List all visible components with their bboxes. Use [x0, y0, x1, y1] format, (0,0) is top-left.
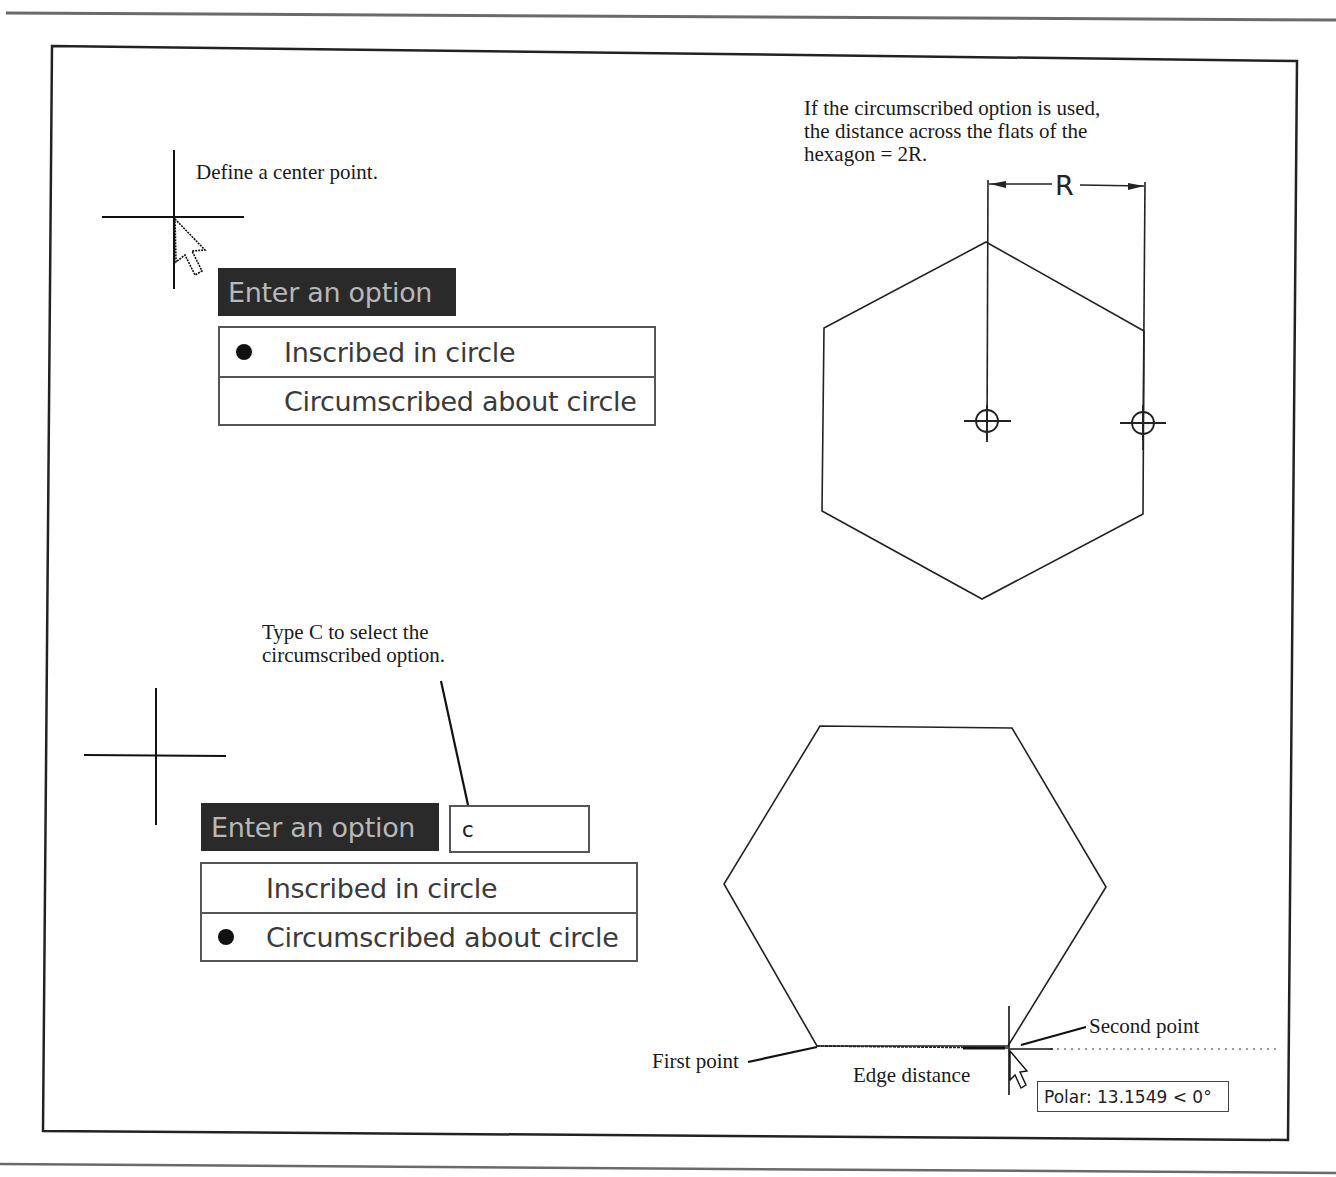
- type-c-callout: Type C to select the circumscribed optio…: [262, 621, 445, 667]
- first-point-label: First point: [652, 1050, 739, 1073]
- command-input[interactable]: c: [449, 805, 590, 853]
- bottom-page-rule: [0, 1164, 1336, 1173]
- enter-option-prompt: Enter an option: [201, 803, 439, 851]
- first-point-leader: [748, 1047, 817, 1062]
- radio-bullet-icon: [218, 929, 234, 945]
- second-point-leader: [1021, 1027, 1086, 1045]
- center-snap-marker-icon: [964, 405, 1011, 442]
- option-list: Inscribed in circle Circumscribed about …: [218, 326, 656, 426]
- circumscribed-hexagon: [724, 726, 1106, 1046]
- option-label: Inscribed in circle: [284, 337, 515, 368]
- callout-line: circumscribed option.: [262, 644, 445, 667]
- circumscribed-note: If the circumscribed option is used, the…: [804, 97, 1100, 166]
- step-caption: Define a center point.: [196, 161, 378, 184]
- callout-leader-line: [441, 681, 468, 805]
- option-inscribed-in-circle[interactable]: Inscribed in circle: [220, 328, 654, 376]
- note-line: If the circumscribed option is used,: [804, 97, 1100, 120]
- option-label: Inscribed in circle: [266, 873, 497, 904]
- second-point-label: Second point: [1089, 1015, 1199, 1038]
- arrow-pointer-icon: [1010, 1051, 1027, 1088]
- enter-option-prompt: Enter an option: [218, 268, 456, 316]
- center-snap-marker-icon: [1120, 405, 1166, 440]
- dimension-label-r: R: [1055, 170, 1074, 201]
- option-circumscribed-about-circle[interactable]: Circumscribed about circle: [220, 376, 654, 424]
- edge-distance-label: Edge distance: [853, 1064, 970, 1087]
- arrow-pointer-icon: [175, 219, 205, 275]
- figure-frame: [43, 46, 1297, 1140]
- option-label: Circumscribed about circle: [266, 922, 619, 953]
- top-page-rule: [6, 13, 1336, 20]
- option-label: Circumscribed about circle: [284, 386, 637, 417]
- callout-line: Type C to select the: [262, 621, 445, 644]
- radio-bullet-icon: [236, 344, 252, 360]
- polar-tooltip: Polar: 13.1549 < 0°: [1037, 1081, 1229, 1112]
- option-inscribed-in-circle[interactable]: Inscribed in circle: [202, 864, 636, 912]
- note-line: the distance across the flats of the: [804, 120, 1100, 143]
- option-list: Inscribed in circle Circumscribed about …: [200, 862, 638, 962]
- note-line: hexagon = 2R.: [804, 143, 1100, 166]
- option-circumscribed-about-circle[interactable]: Circumscribed about circle: [202, 912, 636, 960]
